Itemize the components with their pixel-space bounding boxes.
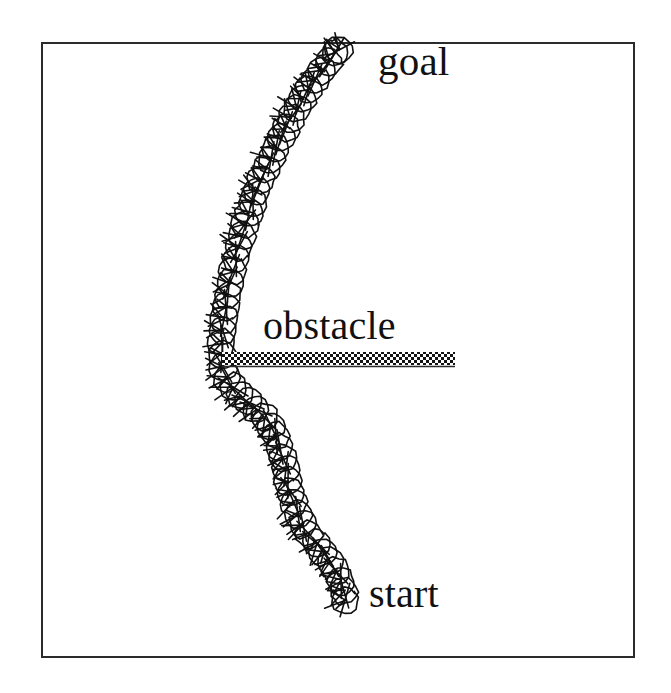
robot-orientation-spoke (327, 39, 335, 53)
robot-orientation-spoke (250, 418, 263, 419)
plot-border (42, 43, 634, 657)
goal-label: goal (378, 41, 449, 82)
figure-canvas: goal obstacle start (0, 0, 671, 693)
obstacle-group (222, 352, 455, 367)
start-label: start (369, 574, 439, 614)
obstacle-label: obstacle (263, 306, 396, 346)
obstacle-bar (222, 352, 455, 365)
